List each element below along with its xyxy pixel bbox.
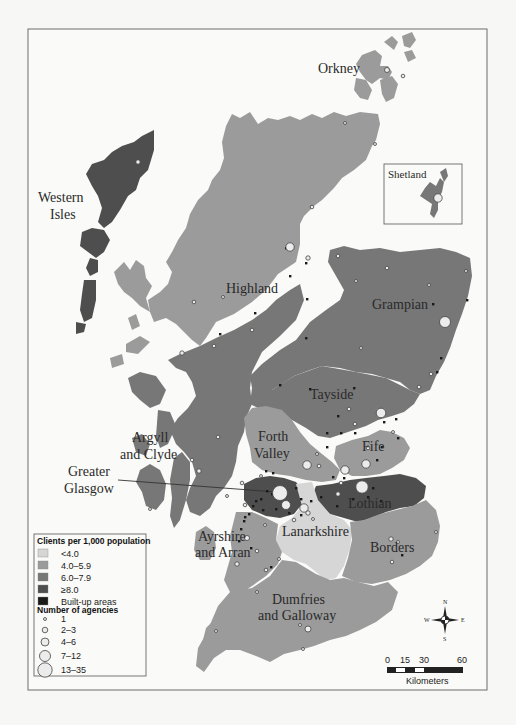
agency-marker [434, 194, 442, 202]
built-up-area [340, 432, 342, 434]
agency-marker [190, 458, 194, 462]
agency-marker [339, 481, 343, 485]
built-up-area [353, 387, 355, 389]
legend-class-label: ≥8.0 [61, 585, 78, 595]
label-glasgow-1: Greater [68, 464, 110, 479]
legend-swatch [38, 561, 48, 569]
scale-tick-30: 30 [419, 655, 429, 665]
agency-marker [299, 624, 302, 627]
legend-agency-circle [38, 663, 52, 677]
agency-marker [341, 466, 349, 474]
built-up-area [440, 357, 442, 359]
agency-marker [264, 524, 267, 527]
agency-marker [374, 143, 377, 146]
agency-marker [401, 74, 405, 78]
agency-marker [435, 531, 438, 534]
label-dumfries-2: and Galloway [258, 608, 336, 623]
label-western-isles-2: Isles [50, 207, 76, 222]
built-up-area [337, 415, 339, 417]
legend-swatch [38, 585, 48, 593]
agency-marker [226, 495, 229, 498]
label-fife: Fife [362, 439, 385, 454]
built-up-area [252, 505, 254, 507]
agency-marker [250, 328, 254, 332]
agency-marker [428, 284, 431, 287]
agency-marker [356, 481, 368, 493]
agency-marker [385, 68, 390, 73]
scale-tick-0: 0 [385, 655, 390, 665]
label-forth-2: Valley [254, 446, 290, 461]
agency-marker [256, 591, 259, 594]
scale-tick-60: 60 [457, 655, 467, 665]
label-grampian: Grampian [372, 297, 428, 312]
label-orkney: Orkney [318, 61, 360, 76]
agency-marker [385, 266, 389, 270]
built-up-area [466, 299, 468, 301]
agency-marker [417, 385, 421, 389]
agency-marker [215, 630, 218, 633]
scale-unit: Kilometers [406, 676, 449, 686]
legend-class-label: 4.0–5.9 [61, 561, 91, 571]
label-argyll-1: Argyll [132, 430, 168, 445]
label-forth-1: Forth [258, 429, 288, 444]
legend-agency-label: 7–12 [61, 651, 81, 661]
built-up-area [397, 437, 399, 439]
agency-marker [192, 300, 196, 304]
agency-marker [336, 492, 340, 496]
agency-marker [264, 568, 268, 572]
compass-e: E [461, 617, 465, 623]
agency-marker [222, 296, 225, 299]
agency-marker [197, 469, 201, 473]
agency-marker [180, 351, 184, 355]
built-up-area [300, 514, 302, 516]
agency-marker [292, 518, 296, 522]
agency-marker [303, 461, 311, 469]
agency-marker [390, 560, 394, 564]
agency-marker [278, 558, 281, 561]
built-up-area [336, 505, 338, 507]
agency-marker [302, 648, 305, 651]
agency-marker [310, 205, 314, 209]
agency-marker [353, 422, 357, 426]
label-glasgow-2: Glasgow [64, 481, 115, 496]
agency-marker [465, 270, 468, 273]
legend-agency-label: 2–3 [61, 625, 76, 635]
legend-agency-circle [44, 618, 47, 621]
agency-marker [282, 501, 291, 510]
agency-marker [273, 486, 288, 501]
built-up-area [260, 498, 262, 500]
agency-marker [212, 344, 216, 348]
agency-marker [429, 372, 433, 376]
label-ayrshire-2: and Arran [195, 545, 251, 560]
label-lanarkshire: Lanarkshire [282, 524, 349, 539]
agency-marker [336, 254, 340, 258]
built-up-area [255, 500, 257, 502]
built-up-area [265, 470, 267, 472]
built-up-area [254, 312, 256, 314]
agency-marker [240, 481, 244, 485]
built-up-area [395, 418, 397, 420]
legend-agency-label: 1 [61, 614, 66, 624]
agency-marker [316, 453, 319, 456]
label-tayside: Tayside [310, 387, 353, 402]
scale-tick-15: 15 [400, 655, 410, 665]
built-up-area [306, 298, 308, 300]
built-up-area [275, 508, 277, 510]
built-up-area [383, 421, 385, 423]
agency-marker [243, 503, 247, 507]
agency-marker [360, 347, 363, 350]
built-up-area [295, 487, 297, 489]
built-up-area [219, 333, 221, 335]
agency-marker [347, 407, 351, 411]
built-up-area [248, 513, 250, 515]
built-up-area [305, 337, 307, 339]
built-up-area [432, 303, 434, 305]
built-up-area [436, 371, 438, 373]
agency-marker [392, 431, 395, 434]
agency-marker [305, 626, 311, 632]
legend-class-label: <4.0 [61, 549, 79, 559]
legend-swatch [38, 549, 48, 557]
legend-swatch [38, 597, 48, 605]
compass-n: N [443, 599, 448, 605]
agency-marker [235, 562, 239, 566]
